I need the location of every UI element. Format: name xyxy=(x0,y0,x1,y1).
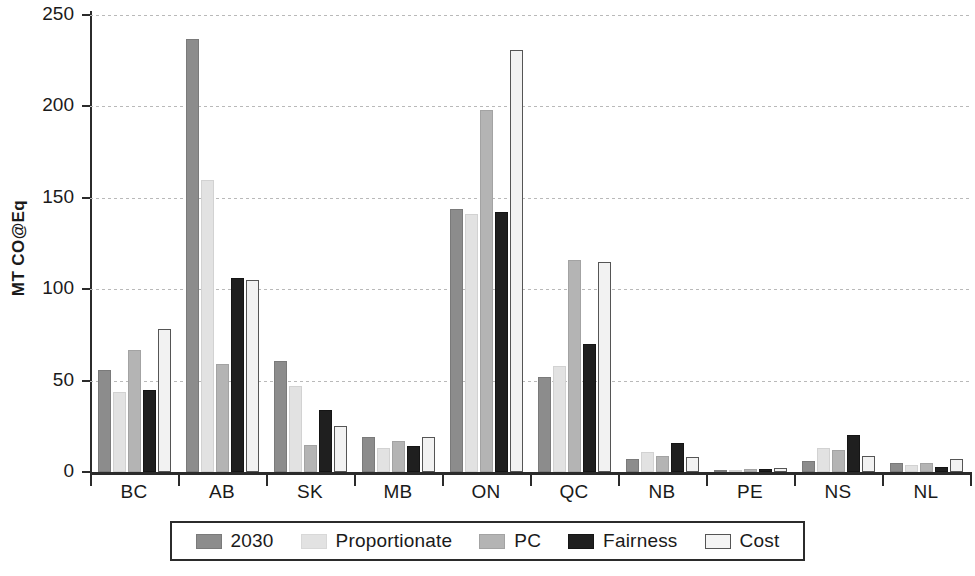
x-axis-tick-label-bc: BC xyxy=(94,481,174,503)
x-axis-tick-mark xyxy=(794,475,796,486)
bar-qc-fairness xyxy=(583,344,596,472)
bar-ns-pc xyxy=(832,450,845,472)
bar-nb-fairness xyxy=(671,443,684,472)
bar-pe-pc xyxy=(744,469,757,472)
bar-nl-fairness xyxy=(935,467,948,472)
bar-pe-proportionate xyxy=(729,470,742,472)
bar-ns-proportionate xyxy=(817,448,830,472)
bar-qc-cost xyxy=(598,262,611,472)
bar-sk-fairness xyxy=(319,410,332,472)
x-axis-tick-mark xyxy=(882,475,884,486)
plot-area xyxy=(90,15,970,472)
y-axis-tick-label: 250 xyxy=(10,3,74,25)
bar-ab-2030 xyxy=(186,39,199,472)
bar-pe-fairness xyxy=(759,469,772,472)
bar-group-ab xyxy=(186,15,259,472)
bar-nl-proportionate xyxy=(905,465,918,472)
bar-bc-cost xyxy=(158,329,171,472)
x-axis-tick-mark xyxy=(442,475,444,486)
bar-nb-2030 xyxy=(626,459,639,472)
bar-group-ns xyxy=(802,15,875,472)
x-axis-tick-label-ab: AB xyxy=(182,481,262,503)
bar-qc-pc xyxy=(568,260,581,472)
x-axis-tick-label-qc: QC xyxy=(534,481,614,503)
bar-bc-proportionate xyxy=(113,392,126,472)
bar-pe-2030 xyxy=(714,470,727,472)
bar-on-fairness xyxy=(495,212,508,472)
bar-sk-proportionate xyxy=(289,386,302,472)
chart-legend: 2030ProportionatePCFairnessCost xyxy=(170,521,805,561)
bar-ns-cost xyxy=(862,456,875,472)
bar-ab-pc xyxy=(216,364,229,472)
legend-label: Fairness xyxy=(603,530,677,552)
bar-ab-proportionate xyxy=(201,180,214,472)
bar-mb-2030 xyxy=(362,437,375,472)
bar-nb-cost xyxy=(686,457,699,472)
legend-swatch-icon xyxy=(479,534,505,549)
legend-swatch-icon xyxy=(568,534,594,549)
legend-label: Proportionate xyxy=(336,530,453,552)
y-axis-tick-label: 100 xyxy=(10,277,74,299)
bar-group-qc xyxy=(538,15,611,472)
bar-qc-2030 xyxy=(538,377,551,472)
y-axis-tick-label: 0 xyxy=(10,460,74,482)
x-axis-tick-mark xyxy=(266,475,268,486)
x-axis-tick-label-sk: SK xyxy=(270,481,350,503)
x-axis-tick-mark xyxy=(970,475,972,486)
bar-on-2030 xyxy=(450,209,463,472)
y-axis-tick-label: 150 xyxy=(10,186,74,208)
x-axis-tick-label-pe: PE xyxy=(710,481,790,503)
bar-ab-cost xyxy=(246,280,259,472)
x-axis-tick-mark xyxy=(706,475,708,486)
bar-qc-proportionate xyxy=(553,366,566,472)
legend-entry-proportionate[interactable]: Proportionate xyxy=(301,530,453,552)
x-axis-tick-label-nl: NL xyxy=(886,481,966,503)
bar-sk-pc xyxy=(304,445,317,472)
bar-ns-fairness xyxy=(847,435,860,472)
legend-swatch-icon xyxy=(705,534,731,549)
bar-sk-cost xyxy=(334,426,347,472)
x-axis-tick-label-mb: MB xyxy=(358,481,438,503)
bar-on-pc xyxy=(480,110,493,472)
bar-group-on xyxy=(450,15,523,472)
bar-ab-fairness xyxy=(231,278,244,472)
bar-mb-fairness xyxy=(407,446,420,472)
bar-nb-pc xyxy=(656,456,669,472)
bar-chart: MT CO@Eq 050100150200250 BCABSKMBONQCNBP… xyxy=(0,0,975,576)
bar-group-sk xyxy=(274,15,347,472)
x-axis-tick-mark xyxy=(618,475,620,486)
bar-group-mb xyxy=(362,15,435,472)
bar-group-nl xyxy=(890,15,963,472)
bar-mb-proportionate xyxy=(377,448,390,472)
bar-on-cost xyxy=(510,50,523,472)
legend-entry-fairness[interactable]: Fairness xyxy=(568,530,677,552)
x-axis-tick-mark xyxy=(354,475,356,486)
legend-entry-cost[interactable]: Cost xyxy=(705,530,780,552)
bar-on-proportionate xyxy=(465,214,478,472)
x-axis-tick-mark xyxy=(530,475,532,486)
y-axis-tick-label: 50 xyxy=(10,369,74,391)
bar-nl-cost xyxy=(950,459,963,472)
bar-group-pe xyxy=(714,15,787,472)
bar-bc-fairness xyxy=(143,390,156,472)
x-axis-tick-label-ns: NS xyxy=(798,481,878,503)
legend-entry-pc[interactable]: PC xyxy=(479,530,541,552)
y-axis-tick-label: 200 xyxy=(10,94,74,116)
bar-mb-pc xyxy=(392,441,405,472)
x-axis-tick-mark xyxy=(90,475,92,486)
x-axis-tick-label-nb: NB xyxy=(622,481,702,503)
bar-ns-2030 xyxy=(802,461,815,472)
bar-pe-cost xyxy=(774,468,787,472)
bar-nl-pc xyxy=(920,463,933,472)
bar-bc-pc xyxy=(128,350,141,472)
legend-swatch-icon xyxy=(301,534,327,549)
bar-group-nb xyxy=(626,15,699,472)
x-axis-tick-label-on: ON xyxy=(446,481,526,503)
bar-bc-2030 xyxy=(98,370,111,472)
bar-group-bc xyxy=(98,15,171,472)
bar-sk-2030 xyxy=(274,361,287,473)
bar-mb-cost xyxy=(422,437,435,472)
legend-entry-2030[interactable]: 2030 xyxy=(196,530,274,552)
x-axis-tick-mark xyxy=(178,475,180,486)
legend-label: 2030 xyxy=(231,530,274,552)
